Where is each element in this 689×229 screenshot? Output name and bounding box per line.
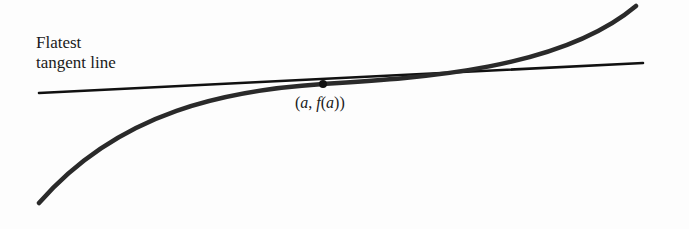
inflection-point (319, 80, 327, 88)
var-a-2: a (326, 94, 334, 111)
diagram-canvas: Flatest tangent line (a, f(a)) (0, 0, 689, 229)
tangent-line-label: Flatest tangent line (36, 33, 116, 73)
label-line-1: Flatest (36, 33, 116, 53)
tangent-line (39, 63, 643, 93)
point-label: (a, f(a)) (295, 94, 345, 112)
label-line-2: tangent line (36, 53, 116, 73)
paren-close: )) (334, 94, 345, 111)
